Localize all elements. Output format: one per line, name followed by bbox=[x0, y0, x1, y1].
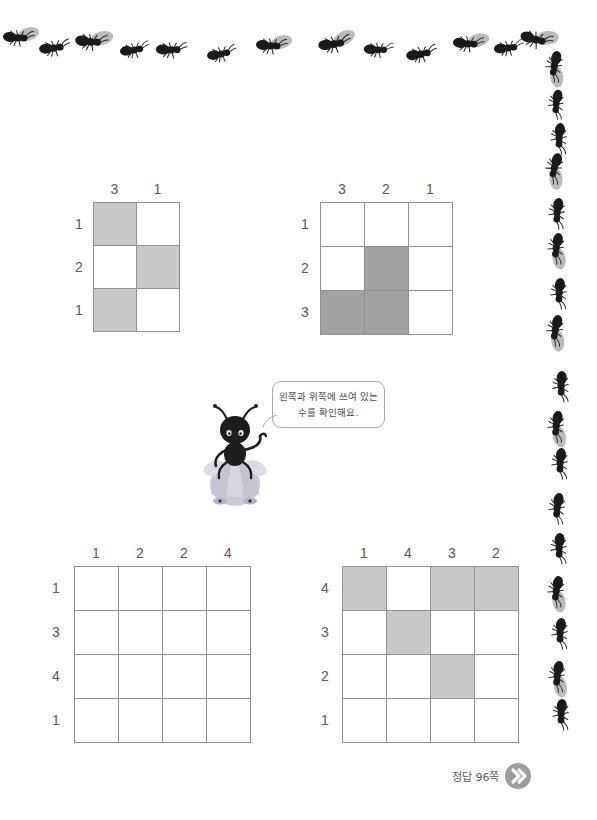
ant-icon-vertical bbox=[545, 574, 570, 611]
ant-icon bbox=[205, 42, 239, 63]
grid-cell[interactable] bbox=[207, 611, 251, 655]
grid-cell[interactable] bbox=[75, 655, 119, 699]
grid-cell[interactable] bbox=[387, 567, 431, 611]
grid[interactable] bbox=[74, 566, 251, 743]
grid-cell[interactable] bbox=[431, 655, 475, 699]
grid-cell[interactable] bbox=[163, 567, 207, 611]
grid-cell[interactable] bbox=[475, 655, 519, 699]
grid-cell[interactable] bbox=[343, 699, 387, 743]
grid-cell[interactable] bbox=[431, 699, 475, 743]
column-clue-1: 1 bbox=[342, 540, 386, 566]
column-header-row: 31 bbox=[65, 176, 180, 202]
column-header-row: 1224 bbox=[38, 540, 251, 566]
ant-icon-vertical bbox=[542, 48, 568, 85]
grid-cell[interactable] bbox=[365, 203, 409, 247]
grid-cell[interactable] bbox=[475, 567, 519, 611]
grid-cell[interactable] bbox=[207, 567, 251, 611]
grid-body: 121 bbox=[65, 202, 180, 332]
ant-icon-vertical bbox=[550, 531, 570, 566]
grid-cell[interactable] bbox=[431, 611, 475, 655]
column-clue-3: 3 bbox=[430, 540, 474, 566]
grid-cell[interactable] bbox=[94, 289, 137, 332]
ant-icon-vertical bbox=[545, 409, 569, 446]
grid-cell[interactable] bbox=[475, 699, 519, 743]
grid-cell[interactable] bbox=[409, 203, 453, 247]
grid-cell[interactable] bbox=[94, 203, 137, 246]
row-clue-2: 3 bbox=[38, 610, 74, 654]
header-corner-spacer bbox=[65, 176, 93, 202]
ant-icon bbox=[254, 34, 290, 55]
double-chevron-right-icon[interactable] bbox=[505, 763, 531, 789]
puzzle-grid-4[interactable]: 14324321 bbox=[308, 540, 519, 743]
grid-cell[interactable] bbox=[321, 247, 365, 291]
ant-icon-vertical bbox=[541, 150, 569, 188]
grid-cell[interactable] bbox=[409, 291, 453, 335]
ant-icon bbox=[517, 24, 557, 53]
grid-body: 1341 bbox=[38, 566, 251, 743]
grid-cell[interactable] bbox=[365, 291, 409, 335]
speech-bubble-line-2: 수를 확인해요. bbox=[298, 405, 358, 421]
grid-cell[interactable] bbox=[75, 699, 119, 743]
grid-cell[interactable] bbox=[119, 611, 163, 655]
row-clue-3: 3 bbox=[290, 290, 320, 334]
grid-cell[interactable] bbox=[321, 291, 365, 335]
grid-cell[interactable] bbox=[343, 611, 387, 655]
grid-cell[interactable] bbox=[343, 655, 387, 699]
grid-cell[interactable] bbox=[163, 699, 207, 743]
ant-icon bbox=[118, 39, 152, 59]
grid-cell[interactable] bbox=[119, 655, 163, 699]
ant-icon-vertical bbox=[546, 491, 570, 528]
ant-icon bbox=[155, 39, 190, 59]
grid-cell[interactable] bbox=[137, 203, 180, 246]
grid-cell[interactable] bbox=[163, 655, 207, 699]
grid-cell[interactable] bbox=[137, 246, 180, 289]
grid-cell[interactable] bbox=[94, 246, 137, 289]
grid-cell[interactable] bbox=[321, 203, 365, 247]
ant-icon-vertical bbox=[550, 446, 571, 482]
grid[interactable] bbox=[93, 202, 180, 332]
grid-cell[interactable] bbox=[387, 655, 431, 699]
row-clue-3: 1 bbox=[65, 288, 93, 331]
column-clue-2: 2 bbox=[364, 176, 408, 202]
grid[interactable] bbox=[320, 202, 453, 335]
column-clue-2: 4 bbox=[386, 540, 430, 566]
grid-cell[interactable] bbox=[431, 567, 475, 611]
grid-cell[interactable] bbox=[163, 611, 207, 655]
grid[interactable] bbox=[342, 566, 519, 743]
header-corner-spacer bbox=[308, 540, 342, 566]
row-clue-2: 2 bbox=[65, 245, 93, 288]
ant-icon-vertical bbox=[543, 312, 569, 349]
column-clue-4: 4 bbox=[206, 540, 250, 566]
ant-icon bbox=[362, 39, 395, 58]
ant-icon-vertical bbox=[549, 121, 570, 157]
grid-cell[interactable] bbox=[343, 567, 387, 611]
speech-bubble-tail bbox=[262, 414, 278, 428]
grid-cell[interactable] bbox=[119, 567, 163, 611]
grid-cell[interactable] bbox=[119, 699, 163, 743]
puzzle-grid-3[interactable]: 12241341 bbox=[38, 540, 251, 743]
ant-icon-vertical bbox=[550, 616, 571, 652]
grid-cell[interactable] bbox=[475, 611, 519, 655]
grid-cell[interactable] bbox=[137, 289, 180, 332]
grid-cell[interactable] bbox=[207, 655, 251, 699]
ant-icon-vertical bbox=[546, 88, 568, 123]
grid-cell[interactable] bbox=[365, 247, 409, 291]
speech-bubble-line-1: 왼쪽과 위쪽에 쓰여 있는 bbox=[279, 389, 378, 405]
row-header-column: 1341 bbox=[38, 566, 74, 743]
grid-cell[interactable] bbox=[387, 611, 431, 655]
row-clue-3: 2 bbox=[308, 654, 342, 698]
speech-bubble: 왼쪽과 위쪽에 쓰여 있는 수를 확인해요. bbox=[272, 381, 385, 428]
grid-cell[interactable] bbox=[387, 699, 431, 743]
answer-reference[interactable]: 정답 96쪽 bbox=[452, 763, 531, 789]
puzzle-grid-2[interactable]: 321123 bbox=[290, 176, 453, 335]
grid-cell[interactable] bbox=[207, 699, 251, 743]
row-clue-4: 1 bbox=[38, 698, 74, 742]
column-clue-3: 2 bbox=[162, 540, 206, 566]
ant-icon bbox=[451, 32, 487, 54]
puzzle-grid-1[interactable]: 31121 bbox=[65, 176, 180, 332]
grid-cell[interactable] bbox=[409, 247, 453, 291]
ant-icon-vertical bbox=[549, 276, 570, 312]
column-clue-1: 1 bbox=[74, 540, 118, 566]
grid-cell[interactable] bbox=[75, 567, 119, 611]
grid-cell[interactable] bbox=[75, 611, 119, 655]
